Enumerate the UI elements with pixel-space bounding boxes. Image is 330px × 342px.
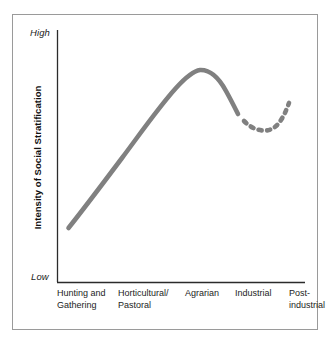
x-axis-label-agrarian: Agrarian — [185, 288, 219, 300]
x-axis-label-hunting-and-gathering: Hunting and Gathering — [57, 288, 106, 311]
x-label-line1: Hunting and — [57, 288, 106, 298]
x-label-line1: Industrial — [235, 288, 272, 298]
x-label-line1: Post- — [289, 288, 310, 298]
x-label-line2: industrial — [289, 300, 325, 312]
y-axis-title: Intensity of Social Stratification — [32, 58, 43, 258]
x-label-line2: Gathering — [57, 300, 106, 312]
x-axis-label-group: Hunting and Gathering Horticultural/ Pas… — [57, 288, 307, 328]
x-axis-label-post-industrial: Post- industrial — [289, 288, 325, 311]
x-label-line1: Horticultural/ — [118, 288, 169, 298]
y-axis-high-label: High — [30, 27, 50, 38]
x-label-line1: Agrarian — [185, 288, 219, 298]
figure-container: High Low Intensity of Social Stratificat… — [0, 0, 330, 342]
x-label-line2: Pastoral — [118, 300, 169, 312]
x-axis-label-horticultural-pastoral: Horticultural/ Pastoral — [118, 288, 169, 311]
y-axis-low-label: Low — [31, 271, 49, 282]
curve-dashed-projected — [244, 103, 289, 131]
curve-solid-observed — [69, 70, 239, 228]
x-axis-label-industrial: Industrial — [235, 288, 272, 300]
